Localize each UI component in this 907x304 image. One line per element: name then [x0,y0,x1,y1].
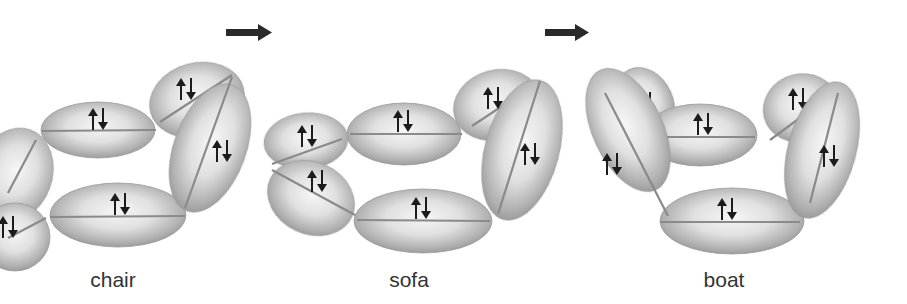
bond-orbital [0,203,50,271]
bond-orbital [41,102,156,158]
bond-axis-line [50,216,185,217]
chair-conformation [0,52,267,271]
transition-arrow-chair-to-sofa [226,24,272,41]
bond-orbital [347,103,462,165]
chair-label: chair [90,268,136,291]
bond-orbital [255,146,367,249]
bond-axis-line [42,130,156,131]
conformation-diagram: chair sofa boat [0,0,907,304]
bond-orbital [354,189,492,253]
orbital-lobe [50,183,186,247]
bond-axis-line [357,220,490,221]
sofa-label: sofa [389,268,429,291]
orbital-lobe [255,146,367,249]
boat-conformation [568,55,873,254]
transition-arrow-sofa-to-boat [545,24,589,41]
sofa-conformation [255,60,576,253]
bond-orbital [50,183,186,247]
boat-label: boat [704,268,745,291]
orbital-lobe [0,203,50,271]
bond-orbital [660,188,804,254]
